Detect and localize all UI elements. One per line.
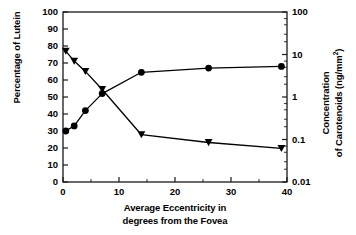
x-axis-title-line1: Average Eccentricity in: [63, 202, 287, 215]
y-axis-left-tick-label: 100: [18, 6, 58, 17]
y-axis-left-tick-label: 40: [18, 108, 58, 119]
y-axis-left-tick-label: 30: [18, 125, 58, 136]
x-axis-tick-label: 40: [267, 186, 307, 197]
data-point-circle: [71, 123, 78, 130]
y-axis-right-title-tail: ): [333, 49, 344, 52]
y-axis-right-title-superscript: 2: [332, 52, 339, 56]
x-axis-tick-label: 0: [43, 186, 83, 197]
data-point-circle: [138, 69, 145, 76]
x-axis-title-line2: degrees from the Fovea: [63, 215, 287, 228]
y-axis-left-tick-label: 10: [18, 159, 58, 170]
y-axis-left-tick-label: 80: [18, 40, 58, 51]
y-axis-left-tick-label: 50: [18, 91, 58, 102]
y-axis-left-tick-label: 60: [18, 74, 58, 85]
y-axis-left-tick-label: 90: [18, 23, 58, 34]
y-axis-right-title: Concentration of Carotenoids (ng/mm2): [316, 18, 350, 188]
data-point-circle: [62, 128, 69, 135]
series-line-lutein: [66, 66, 282, 131]
y-axis-right-tick-label: 100: [292, 6, 332, 17]
x-axis-tick-label: 30: [211, 186, 251, 197]
y-axis-left-tick-label: 70: [18, 57, 58, 68]
x-axis-title: Average Eccentricity in degrees from the…: [63, 202, 287, 227]
data-point-circle: [205, 65, 212, 72]
plot-frame: [63, 12, 287, 182]
x-axis-tick-label: 20: [155, 186, 195, 197]
y-axis-right-title-line2: of Carotenoids (ng/mm2): [332, 49, 344, 157]
y-axis-right-tick-label: 1: [292, 91, 332, 102]
x-axis-tick-label: 10: [99, 186, 139, 197]
chart-figure: Percentage of Lutein Concentration of Ca…: [0, 0, 356, 235]
y-axis-right-tick-label: 0.1: [292, 134, 332, 145]
y-axis-right-title-line1: Concentration: [320, 71, 331, 134]
data-point-circle: [278, 63, 285, 70]
series-line-carotenoids: [66, 51, 282, 148]
y-axis-right-tick-label: 10: [292, 49, 332, 60]
y-axis-left-tick-label: 20: [18, 142, 58, 153]
data-point-circle: [82, 107, 89, 114]
y-axis-right-title-line2-text: of Carotenoids (ng/mm: [333, 55, 344, 157]
